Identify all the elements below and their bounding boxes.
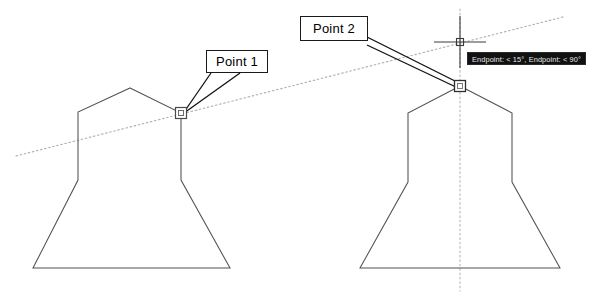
leader-line-point-2-lower xyxy=(367,45,458,88)
endpoint-square-icon xyxy=(176,108,187,119)
callout-point-1: Point 1 xyxy=(206,50,268,73)
leader-line-point-1-upper xyxy=(184,73,240,113)
callout-point-2-label: Point 2 xyxy=(313,22,355,35)
callout-point-1-label: Point 1 xyxy=(216,55,258,68)
leader-line-point-2-upper xyxy=(367,37,461,84)
left-lamp-profile xyxy=(33,88,230,268)
cad-drawing-canvas: Point 1 Point 2 Endpoint: < 15°, Endpoin… xyxy=(0,0,600,296)
callout-point-2: Point 2 xyxy=(300,16,368,41)
object-snap-tooltip: Endpoint: < 15°, Endpoint: < 90° xyxy=(467,52,586,65)
snap-marker-left xyxy=(176,108,187,119)
snap-marker-right xyxy=(455,81,466,92)
cad-vector-layer xyxy=(0,0,600,296)
angled-construction-line xyxy=(16,17,563,156)
endpoint-square-icon xyxy=(455,81,466,92)
